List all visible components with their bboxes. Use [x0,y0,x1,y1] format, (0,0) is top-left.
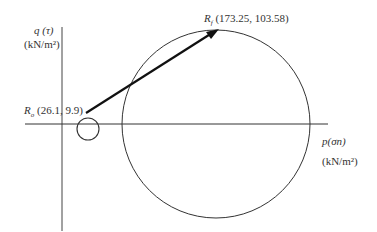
x-axis-label: p(σn) [322,135,346,147]
x-axis-unit: (kN/m²) [322,155,358,167]
initial-stress-circle [77,118,99,140]
mohr-circle-diagram [0,0,377,232]
y-axis-unit: (kN/m²) [24,38,60,50]
final-point-label: Rf (173.25, 103.58) [204,12,289,24]
initial-point-label: Ro (26.1, 9.9) [24,104,83,116]
stress-path-arrow [86,33,212,113]
y-axis-label: q (τ) [34,24,54,36]
